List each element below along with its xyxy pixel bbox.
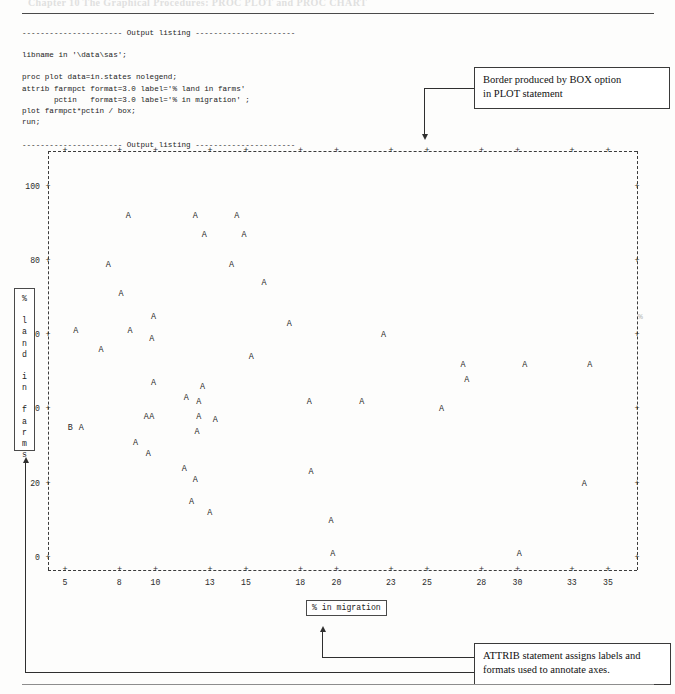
- x-tick-top: +: [153, 147, 158, 156]
- data-point: A: [151, 313, 156, 321]
- y-axis-label-char: m: [15, 438, 34, 449]
- x-tick-top: +: [244, 147, 249, 156]
- data-point: A: [182, 465, 187, 473]
- data-point: A: [128, 327, 133, 335]
- x-tick-top: +: [479, 147, 484, 156]
- y-tick-right: +: [635, 183, 640, 192]
- callout-box-option-line1: Border produced by BOX option: [483, 73, 662, 87]
- data-point: A: [193, 212, 198, 220]
- data-point: A: [79, 424, 84, 432]
- y-axis-label-char: n: [15, 382, 34, 393]
- callout-attrib-line2: formats used to annotate axes.: [483, 663, 663, 677]
- data-point: A: [242, 231, 247, 239]
- y-tick-left: +: [46, 480, 51, 489]
- x-tick-bottom: +: [63, 566, 68, 575]
- x-axis-label-box: % in migration: [306, 600, 387, 616]
- y-axis-label-char: a: [15, 416, 34, 427]
- x-tick-bottom: +: [425, 566, 430, 575]
- y-axis-label-char: [15, 360, 34, 371]
- data-point: A: [309, 468, 314, 476]
- data-point: A: [195, 428, 200, 436]
- leader-box-option-horizontal: [424, 88, 474, 89]
- y-axis-label-char: a: [15, 326, 34, 337]
- leader-box-option-vertical: [424, 88, 425, 135]
- x-tick-label: 5: [60, 579, 70, 587]
- x-tick-top: +: [334, 147, 339, 156]
- y-axis-label-box: % land in farms: [14, 288, 35, 451]
- x-tick-label: 18: [295, 579, 305, 587]
- data-point: A: [146, 450, 151, 458]
- y-tick-right: +: [635, 257, 640, 266]
- data-point: A: [184, 394, 189, 402]
- data-point: A: [213, 416, 218, 424]
- plot-border-top: [48, 151, 637, 152]
- data-point: A: [359, 398, 364, 406]
- x-tick-bottom: +: [298, 566, 303, 575]
- data-point: A: [151, 379, 156, 387]
- data-point: A: [73, 327, 78, 335]
- plot-border-left: [48, 151, 49, 570]
- y-tick-label: 20: [16, 480, 40, 488]
- y-axis-label-char: [15, 393, 34, 404]
- x-tick-top: +: [569, 147, 574, 156]
- y-tick-right: +: [635, 554, 640, 563]
- x-tick-top: +: [515, 147, 520, 156]
- x-tick-top: +: [63, 147, 68, 156]
- plot-border-right: [637, 151, 638, 570]
- x-tick-label: 20: [332, 579, 342, 587]
- x-tick-bottom: +: [606, 566, 611, 575]
- data-point: A: [193, 476, 198, 484]
- y-axis-label-char: l: [15, 315, 34, 326]
- x-tick-top: +: [117, 147, 122, 156]
- data-point: A: [119, 290, 124, 298]
- y-tick-left: +: [46, 331, 51, 340]
- data-point: A: [262, 279, 267, 287]
- data-point: A: [234, 212, 239, 220]
- footer-rule: [22, 684, 654, 685]
- x-tick-bottom: +: [334, 566, 339, 575]
- data-point: A: [126, 212, 131, 220]
- x-tick-label: 10: [151, 579, 161, 587]
- data-point: A: [144, 413, 149, 421]
- x-tick-label: 33: [567, 579, 577, 587]
- data-point: A: [582, 480, 587, 488]
- x-tick-label: 15: [241, 579, 251, 587]
- y-axis-label-char: n: [15, 338, 34, 349]
- y-tick-left: +: [46, 257, 51, 266]
- data-point: A: [133, 439, 138, 447]
- leader-attrib-vertical-bottom: [25, 463, 26, 673]
- data-point: A: [106, 261, 111, 269]
- x-tick-label: 28: [476, 579, 486, 587]
- data-point: B: [68, 424, 73, 432]
- x-tick-bottom: +: [515, 566, 520, 575]
- x-tick-top: +: [388, 147, 393, 156]
- data-point: A: [328, 517, 333, 525]
- y-axis-label-char: i: [15, 371, 34, 382]
- y-tick-right: +: [635, 405, 640, 414]
- x-tick-bottom: +: [117, 566, 122, 575]
- leader-attrib-horizontal-top: [322, 657, 474, 658]
- data-point: A: [189, 498, 194, 506]
- data-point: A: [149, 335, 154, 343]
- leader-attrib-arrowhead-top: [320, 626, 326, 632]
- x-tick-top: +: [606, 147, 611, 156]
- data-point: A: [196, 398, 201, 406]
- data-point: A: [249, 353, 254, 361]
- y-tick-label: 80: [16, 257, 40, 265]
- data-point: A: [307, 398, 312, 406]
- leader-box-option-arrowhead: [422, 134, 428, 140]
- data-point: A: [587, 361, 592, 369]
- data-point: A: [464, 376, 469, 384]
- data-point: A: [461, 361, 466, 369]
- data-point: A: [330, 550, 335, 558]
- callout-attrib-line1: ATTRIB statement assigns labels and: [483, 649, 663, 663]
- x-tick-top: +: [425, 147, 430, 156]
- y-tick-left: +: [46, 405, 51, 414]
- textbook-page: Chapter 10 The Graphical Procedures: PRO…: [0, 0, 675, 694]
- callout-box-option: Border produced by BOX option in PLOT st…: [474, 67, 670, 109]
- data-point: A: [522, 361, 527, 369]
- x-tick-label: 23: [386, 579, 396, 587]
- data-point: A: [207, 509, 212, 517]
- callout-box-option-line2: in PLOT statement: [483, 87, 662, 101]
- y-axis-label-char: r: [15, 427, 34, 438]
